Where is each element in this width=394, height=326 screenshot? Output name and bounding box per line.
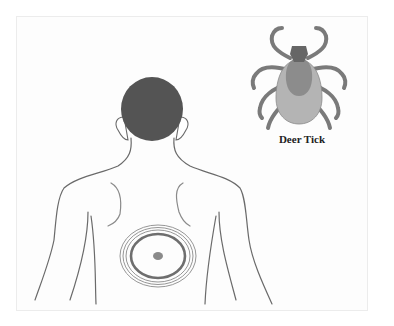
tick-shield	[286, 58, 312, 96]
rash-center	[153, 252, 163, 260]
bullseye-rash	[120, 225, 196, 287]
tick-label: Deer Tick	[270, 133, 334, 145]
back-illustration	[0, 0, 394, 326]
body-outline	[35, 138, 272, 304]
deer-tick-icon	[253, 28, 346, 128]
tick-head	[290, 46, 308, 62]
head-hair	[121, 77, 183, 141]
